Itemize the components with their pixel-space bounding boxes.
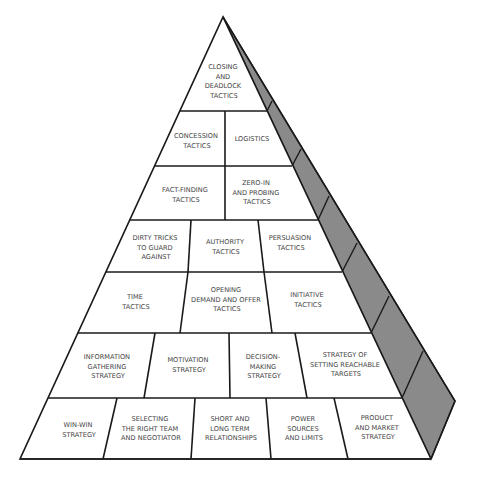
label-logistics: LOGISTICS: [235, 135, 270, 143]
label-motivation-strategy: MOTIVATION STRATEGY: [167, 356, 210, 374]
label-closing-deadlock-tactics: CLOSING AND DEADLOCK TACTICS: [205, 63, 244, 100]
label-win-win-strategy: WIN-WIN STRATEGY: [62, 421, 97, 439]
label-short-long-term-relationships: SHORT AND LONG TERM RELATIONSHIPS: [205, 415, 257, 442]
label-product-market-strategy: PRODUCT AND MARKET STRATEGY: [355, 414, 401, 441]
label-decision-making-strategy: DECISION- MAKING STRATEGY: [246, 353, 283, 380]
negotiation-pyramid-diagram: CLOSING AND DEADLOCK TACTICS CONCESSION …: [0, 0, 479, 486]
label-initiative-tactics: INITIATIVE TACTICS: [290, 291, 326, 309]
